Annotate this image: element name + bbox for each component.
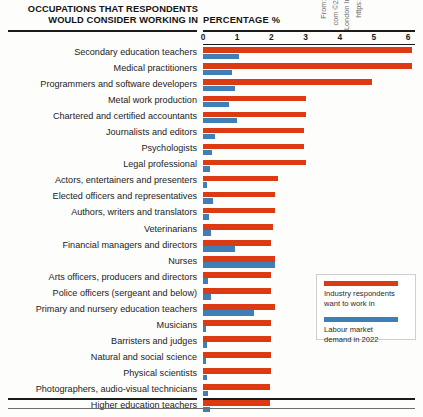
chart-row: Photographers, audio-visual technicians xyxy=(0,383,423,399)
legend-label-blue-line-2: demand in 2022 xyxy=(324,335,408,344)
chart-page: OCCUPATIONS THAT RESPONDENTS WOULD CONSI… xyxy=(0,0,423,417)
category-label: Programmers and software developers xyxy=(40,79,197,90)
chart-row: Actors, entertainers and presenters xyxy=(0,174,423,190)
bar-group xyxy=(203,239,415,255)
chart-row: Financial managers and directors xyxy=(0,239,423,255)
x-tick-5: 5 xyxy=(372,32,377,42)
bar-group xyxy=(203,62,415,78)
category-label: Primary and nursery education teachers xyxy=(36,304,197,315)
bar-group xyxy=(203,142,415,158)
category-label: Higher education teachers xyxy=(91,400,197,411)
bar-industry-respondents xyxy=(203,400,270,406)
bar-industry-respondents xyxy=(203,47,412,53)
bar-group xyxy=(203,206,415,222)
bar-labour-market-demand xyxy=(203,102,229,108)
bar-labour-market-demand xyxy=(203,278,208,284)
bar-industry-respondents xyxy=(203,176,278,182)
bar-industry-respondents xyxy=(203,112,306,118)
x-axis-ticks: 0123456 xyxy=(203,32,415,44)
bar-labour-market-demand xyxy=(203,166,210,172)
bar-group xyxy=(203,255,415,271)
category-label: Veterinarians xyxy=(144,224,197,235)
bar-industry-respondents xyxy=(203,96,306,102)
chart-row: Veterinarians xyxy=(0,223,423,239)
bar-industry-respondents xyxy=(203,272,271,278)
category-label: Nurses xyxy=(168,256,197,267)
chart-row: Journalists and editors xyxy=(0,126,423,142)
category-label: Physical scientists xyxy=(123,368,197,379)
title-line-1: OCCUPATIONS THAT RESPONDENTS xyxy=(8,4,198,15)
bar-group xyxy=(203,174,415,190)
category-label: Musicians xyxy=(157,320,197,331)
chart-row: Programmers and software developers xyxy=(0,78,423,94)
bar-industry-respondents xyxy=(203,144,304,150)
bar-industry-respondents xyxy=(203,128,304,134)
header-rule-left xyxy=(8,30,197,32)
bar-labour-market-demand xyxy=(203,134,215,140)
bar-industry-respondents xyxy=(203,208,275,214)
x-tick-4: 4 xyxy=(337,32,342,42)
chart-row: Chartered and certified accountants xyxy=(0,110,423,126)
x-tick-2: 2 xyxy=(269,32,274,42)
bar-group xyxy=(203,94,415,110)
category-label: Arts officers, producers and directors xyxy=(49,272,197,283)
bar-labour-market-demand xyxy=(203,230,211,236)
category-label: Barristers and judges xyxy=(111,336,197,347)
bar-labour-market-demand xyxy=(203,86,235,92)
bar-labour-market-demand xyxy=(203,358,206,364)
legend-label-red: Industry respondents want to work in xyxy=(324,289,408,308)
legend-swatch-blue xyxy=(324,317,398,322)
bar-group xyxy=(203,126,415,142)
bar-group xyxy=(203,46,415,62)
title-line-2: WOULD CONSIDER WORKING IN xyxy=(8,15,198,26)
chart-plot-area: Secondary education teachersMedical prac… xyxy=(0,46,423,415)
bar-industry-respondents xyxy=(203,288,271,294)
chart-row: Natural and social science xyxy=(0,351,423,367)
legend-label-red-line-1: Industry respondents xyxy=(324,289,408,298)
category-label: Natural and social science xyxy=(91,352,197,363)
chart-row: Metal work production xyxy=(0,94,423,110)
bar-industry-respondents xyxy=(203,320,271,326)
bar-industry-respondents xyxy=(203,384,270,390)
chart-row: Nurses xyxy=(0,255,423,271)
bar-labour-market-demand xyxy=(203,262,275,268)
chart-header: OCCUPATIONS THAT RESPONDENTS WOULD CONSI… xyxy=(0,0,423,32)
bar-industry-respondents xyxy=(203,304,275,310)
bar-industry-respondents xyxy=(203,160,306,166)
legend-swatch-red xyxy=(324,281,398,286)
bar-industry-respondents xyxy=(203,256,275,262)
legend-label-blue: Labour market demand in 2022 xyxy=(324,325,408,344)
category-label: Journalists and editors xyxy=(106,127,197,138)
axis-title: PERCENTAGE % xyxy=(203,15,280,25)
category-label: Metal work production xyxy=(108,95,197,106)
category-label: Financial managers and directors xyxy=(63,240,197,251)
bar-industry-respondents xyxy=(203,79,372,85)
bar-labour-market-demand xyxy=(203,342,207,348)
legend-label-red-line-2: want to work in xyxy=(324,299,408,308)
chart-row: Elected officers and representatives xyxy=(0,190,423,206)
bar-labour-market-demand xyxy=(203,310,254,316)
bar-group xyxy=(203,190,415,206)
bar-labour-market-demand xyxy=(203,118,237,124)
category-label: Actors, entertainers and presenters xyxy=(55,175,197,186)
x-tick-0: 0 xyxy=(201,32,206,42)
bar-labour-market-demand xyxy=(203,70,232,76)
legend-label-blue-line-1: Labour market xyxy=(324,325,408,334)
category-label: Police officers (sergeant and below) xyxy=(53,288,197,299)
footer-rule-full xyxy=(8,408,415,409)
bar-group xyxy=(203,351,415,367)
bar-industry-respondents xyxy=(203,240,271,246)
bar-group xyxy=(203,367,415,383)
chart-row: Authors, writers and translators xyxy=(0,206,423,222)
x-tick-3: 3 xyxy=(303,32,308,42)
category-label: Legal professional xyxy=(123,159,197,170)
page-title: OCCUPATIONS THAT RESPONDENTS WOULD CONSI… xyxy=(8,4,198,27)
bar-labour-market-demand xyxy=(203,150,212,156)
bar-labour-market-demand xyxy=(203,294,211,300)
bar-labour-market-demand xyxy=(203,182,207,188)
bar-labour-market-demand xyxy=(203,198,213,204)
bar-industry-respondents xyxy=(203,192,275,198)
bar-industry-respondents xyxy=(203,63,412,69)
bar-group xyxy=(203,223,415,239)
bar-industry-respondents xyxy=(203,224,273,230)
